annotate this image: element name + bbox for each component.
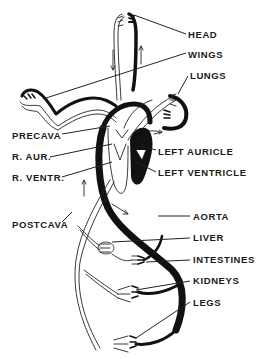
head-vessels — [111, 14, 143, 100]
label-kidneys: KIDNEYS — [193, 275, 239, 286]
label-head: HEAD — [188, 29, 217, 40]
label-precava: PRECAVA — [12, 130, 61, 141]
postcava-vessels — [75, 180, 118, 350]
label-liver: LIVER — [193, 232, 224, 243]
capillary-beds — [98, 204, 180, 352]
label-left-auricle: LEFT AURICLE — [158, 146, 233, 157]
label-wings: WINGS — [188, 49, 223, 60]
label-intestines: INTESTINES — [193, 254, 255, 265]
wing-vessels — [20, 90, 116, 130]
circulation-diagram: HEAD WINGS LUNGS PRECAVA R. AUR. LEFT AU… — [0, 0, 264, 359]
label-left-ventricle: LEFT VENTRICLE — [158, 167, 247, 178]
label-r-aur: R. AUR. — [12, 151, 51, 162]
label-r-ventr: R. VENTR. — [12, 172, 64, 183]
label-postcava: POSTCAVA — [12, 219, 68, 230]
label-legs: LEGS — [193, 297, 221, 308]
heart — [99, 100, 182, 330]
label-aorta: AORTA — [193, 211, 229, 222]
label-lungs: LUNGS — [190, 70, 226, 81]
